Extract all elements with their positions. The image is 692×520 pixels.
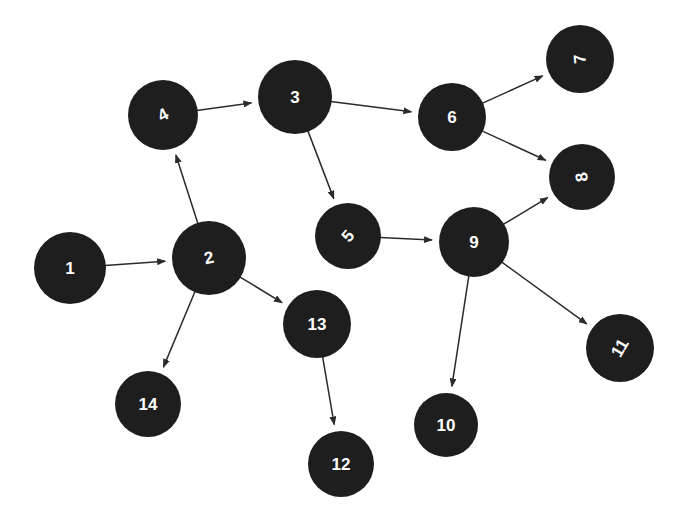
graph-node-label-14: 14 — [139, 395, 158, 414]
graph-edge-9-to-8 — [503, 198, 548, 225]
graph-node-9[interactable]: 9 — [439, 207, 509, 277]
graph-edge-3-to-6 — [331, 102, 412, 112]
directed-graph-svg: 1234567891011121314 — [0, 0, 692, 520]
graph-node-label-3: 3 — [290, 88, 299, 107]
graph-edge-3-to-5 — [308, 131, 334, 199]
graph-node-12[interactable]: 12 — [308, 431, 374, 497]
graph-edge-9-to-11 — [502, 262, 587, 324]
graph-node-label-9: 9 — [469, 233, 478, 252]
graph-node-label-7: 7 — [570, 53, 590, 64]
graph-node-label-1: 1 — [65, 259, 74, 278]
graph-edge-2-to-14 — [163, 291, 195, 367]
graph-edge-1-to-2 — [105, 261, 165, 265]
nodes-layer: 1234567891011121314 — [34, 25, 654, 497]
graph-node-4[interactable]: 4 — [128, 80, 198, 150]
graph-node-2[interactable]: 2 — [172, 221, 246, 295]
graph-node-label-6: 6 — [447, 108, 456, 127]
graph-node-5[interactable]: 5 — [315, 203, 381, 269]
graph-edge-2-to-4 — [176, 155, 198, 224]
graph-canvas: 1234567891011121314 — [0, 0, 692, 520]
graph-node-8[interactable]: 8 — [549, 144, 615, 210]
graph-node-7[interactable]: 7 — [546, 25, 614, 93]
graph-edge-5-to-9 — [380, 238, 432, 240]
graph-node-label-12: 12 — [332, 455, 351, 474]
graph-node-label-10: 10 — [437, 416, 456, 435]
graph-edge-13-to-12 — [323, 357, 335, 425]
graph-node-6[interactable]: 6 — [418, 83, 486, 151]
graph-edge-6-to-7 — [482, 76, 543, 103]
graph-node-3[interactable]: 3 — [258, 60, 332, 134]
graph-node-14[interactable]: 14 — [115, 371, 181, 437]
graph-edge-2-to-13 — [240, 277, 282, 303]
graph-node-label-13: 13 — [308, 315, 327, 334]
graph-node-11[interactable]: 11 — [586, 314, 654, 382]
graph-edge-4-to-3 — [197, 103, 252, 110]
graph-node-10[interactable]: 10 — [414, 393, 478, 457]
graph-edge-6-to-8 — [482, 131, 546, 160]
graph-edge-9-to-10 — [452, 276, 469, 387]
graph-node-1[interactable]: 1 — [34, 232, 106, 304]
graph-node-13[interactable]: 13 — [283, 290, 351, 358]
